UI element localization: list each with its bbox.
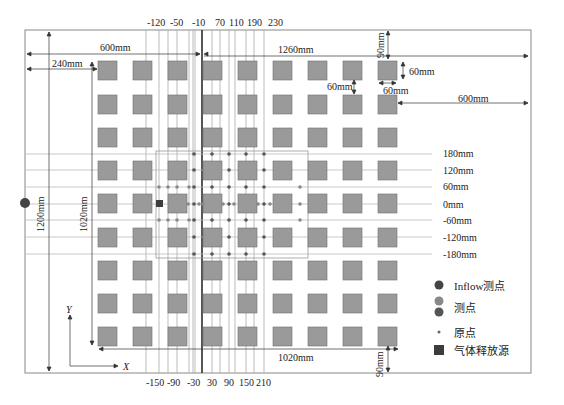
dim-1200mm: 1200mm bbox=[36, 196, 46, 232]
dim-1020mm-horizontal: 1020mm bbox=[278, 353, 314, 363]
dim-60mm-height: 60mm bbox=[409, 67, 435, 77]
dim-600mm-right: 600mm bbox=[458, 94, 489, 104]
top-tick-label: -50 bbox=[170, 18, 183, 28]
dim-1020mm-vertical: 1020mm bbox=[79, 196, 89, 232]
wind-tunnel-layout-diagram: -120 -50 -10 70 110 190 230 -150 -90 -30… bbox=[0, 0, 564, 405]
inflow-measurement-point bbox=[20, 198, 30, 208]
top-tick-label: 110 bbox=[229, 18, 244, 28]
bottom-tick-label: -150 bbox=[146, 378, 164, 388]
x-axis-label: X bbox=[123, 362, 129, 372]
y-axis-label: Y bbox=[66, 305, 72, 315]
bottom-tick-label: 210 bbox=[256, 378, 271, 388]
small-dot-icon bbox=[432, 327, 446, 337]
top-tick-label: 230 bbox=[268, 18, 283, 28]
legend-item-inflow: Inflow测点 bbox=[432, 277, 505, 293]
building-array bbox=[98, 61, 397, 346]
legend-item-origin: 原点 bbox=[432, 324, 476, 340]
bottom-tick-label: -30 bbox=[187, 378, 200, 388]
legend-label: 测点 bbox=[454, 299, 476, 315]
dim-90mm-bottom: 90mm bbox=[375, 351, 385, 377]
bottom-tick-label: 150 bbox=[239, 378, 254, 388]
legend-item-source: 气体释放源 bbox=[432, 342, 509, 358]
legend-label: Inflow测点 bbox=[454, 277, 505, 293]
dim-600mm-left: 600mm bbox=[100, 43, 131, 53]
top-tick-label: -120 bbox=[147, 18, 165, 28]
top-tick-label: -10 bbox=[192, 18, 205, 28]
row-label: -120mm bbox=[443, 233, 477, 243]
row-label: -60mm bbox=[443, 216, 472, 226]
row-label: 0mm bbox=[443, 200, 464, 210]
dim-60mm-width: 60mm bbox=[383, 86, 409, 96]
bottom-tick-label: 90 bbox=[224, 378, 234, 388]
dim-240mm: 240mm bbox=[52, 59, 83, 69]
gas-release-source bbox=[156, 200, 163, 207]
row-label: 120mm bbox=[443, 166, 474, 176]
grey-circles-icon bbox=[432, 296, 446, 318]
dim-1260mm: 1260mm bbox=[278, 45, 314, 55]
top-tick-label: 190 bbox=[247, 18, 262, 28]
legend-label: 原点 bbox=[454, 324, 476, 340]
dim-60mm-gap: 60mm bbox=[327, 82, 353, 92]
row-label: 60mm bbox=[443, 182, 469, 192]
top-tick-label: 70 bbox=[215, 18, 225, 28]
bottom-tick-label: 30 bbox=[207, 378, 217, 388]
dark-square-icon bbox=[432, 345, 446, 355]
row-label: -180mm bbox=[443, 250, 477, 260]
legend-label: 气体释放源 bbox=[454, 342, 509, 358]
dim-90mm-top: 90mm bbox=[376, 32, 386, 58]
legend-item-measurement: 测点 bbox=[432, 296, 476, 318]
row-label: 180mm bbox=[443, 149, 474, 159]
bottom-tick-label: -90 bbox=[167, 378, 180, 388]
dark-circle-icon bbox=[432, 280, 446, 290]
